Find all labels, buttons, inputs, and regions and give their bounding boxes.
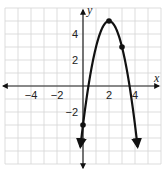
x-tick-label: −2 [51,89,64,101]
x-axis-label: x [153,71,160,85]
x-tick-label: 4 [132,89,138,101]
y-tick-label: 2 [72,54,78,66]
x-tick-label: −4 [25,89,38,101]
y-tick-label: −2 [65,106,78,118]
data-point [119,44,125,50]
y-tick-label: 4 [72,28,78,40]
x-tick-label: 2 [106,89,112,101]
data-point [106,18,112,24]
data-point [80,122,86,128]
parabola-graph: x y −4−22442−2 [0,0,164,177]
y-axis-label: y [86,3,93,17]
